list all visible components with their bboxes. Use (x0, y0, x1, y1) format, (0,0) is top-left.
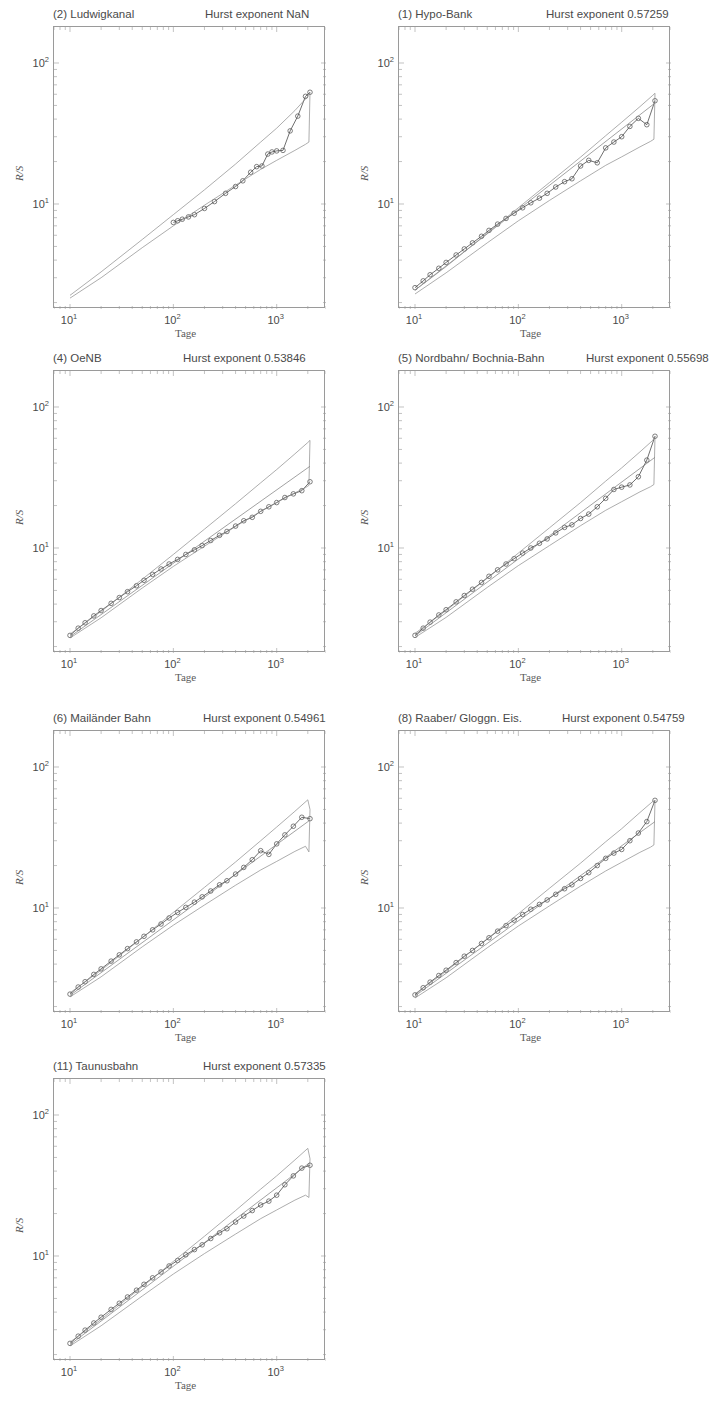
y-axis-label: R/S (358, 510, 370, 525)
x-tick-label: 103 (267, 1364, 283, 1378)
panel-hurst-exponent: Hurst exponent 0.57259 (546, 8, 669, 20)
x-tick-label: 101 (61, 1016, 77, 1030)
y-tick-label: 101 (372, 900, 394, 914)
series-line-linear-fit (415, 103, 655, 290)
x-axis-label: Tage (175, 671, 196, 683)
panel-title-name: (6) Mailänder Bahn (53, 712, 151, 724)
series-line-r-s-data (70, 1165, 310, 1343)
y-tick-label: 101 (372, 540, 394, 554)
panel-hurst-exponent: Hurst exponent 0.53846 (183, 352, 306, 364)
x-axis-label: Tage (175, 1379, 196, 1391)
series-line-lower-envelope (70, 440, 310, 638)
panel-hurst-exponent: Hurst exponent 0.54961 (203, 712, 326, 724)
series-line-lower-envelope (415, 436, 655, 637)
series-markers (68, 815, 313, 996)
plot-panel-ludwigkanal: (2) LudwigkanalHurst exponent NaN1011021… (53, 8, 325, 342)
axis-ticks (54, 371, 326, 653)
y-tick-label: 101 (372, 196, 394, 210)
axis-ticks (399, 371, 671, 653)
series-line-r-s-data (70, 482, 310, 636)
y-tick-label: 102 (372, 759, 394, 773)
series-line-r-s-data (415, 436, 655, 635)
panel-title: (5) Nordbahn/ Bochnia-BahnHurst exponent… (398, 352, 670, 368)
plot-panel-mail-nder-bahn: (6) Mailänder BahnHurst exponent 0.54961… (53, 712, 325, 1046)
x-tick-label: 102 (509, 312, 525, 326)
y-axis-label: R/S (13, 510, 25, 525)
series-line-lower-envelope (415, 93, 655, 294)
plot-canvas (54, 1079, 326, 1361)
y-tick-label: 102 (27, 399, 49, 413)
series-markers (171, 90, 312, 225)
series-line-lower-envelope (70, 92, 310, 298)
panel-hurst-exponent: Hurst exponent NaN (205, 8, 309, 20)
plot-canvas (399, 731, 671, 1013)
x-tick-label: 103 (267, 656, 283, 670)
x-tick-label: 102 (509, 656, 525, 670)
x-axis-label: Tage (175, 327, 196, 339)
plot-panel-raaber-gloggn-eis: (8) Raaber/ Gloggn. Eis.Hurst exponent 0… (398, 712, 670, 1046)
panel-hurst-exponent: Hurst exponent 0.54759 (562, 712, 685, 724)
x-axis-label: Tage (520, 1031, 541, 1043)
panel-title-name: (8) Raaber/ Gloggn. Eis. (398, 712, 522, 724)
panel-title: (1) Hypo-BankHurst exponent 0.57259 (398, 8, 670, 24)
series-line-r-s-data (70, 817, 310, 994)
x-tick-label: 101 (61, 312, 77, 326)
y-axis-label: R/S (13, 870, 25, 885)
axis-ticks (399, 731, 671, 1013)
y-axis-label: R/S (358, 870, 370, 885)
panel-title-name: (5) Nordbahn/ Bochnia-Bahn (398, 352, 544, 364)
series-line-lower-envelope (415, 800, 655, 998)
panel-title-name: (1) Hypo-Bank (398, 8, 472, 20)
x-tick-label: 103 (612, 656, 628, 670)
panel-title: (2) LudwigkanalHurst exponent NaN (53, 8, 325, 24)
x-tick-label: 103 (612, 1016, 628, 1030)
panel-title-name: (11) Taunusbahn (53, 1060, 138, 1072)
plot-canvas (54, 27, 326, 309)
plot-area (398, 730, 670, 1012)
x-axis-label: Tage (520, 671, 541, 683)
y-tick-label: 102 (27, 1107, 49, 1121)
series-line-upper-envelope (70, 440, 310, 634)
x-tick-label: 101 (406, 1016, 422, 1030)
x-tick-label: 101 (406, 312, 422, 326)
panel-title-name: (2) Ludwigkanal (53, 8, 134, 20)
x-tick-label: 103 (612, 312, 628, 326)
panel-title: (4) OeNBHurst exponent 0.53846 (53, 352, 325, 368)
axis-ticks (399, 27, 671, 309)
series-line-linear-fit (415, 457, 655, 636)
plot-panel-taunusbahn: (11) TaunusbahnHurst exponent 0.57335101… (53, 1060, 325, 1394)
x-tick-label: 103 (267, 1016, 283, 1030)
x-tick-label: 101 (61, 656, 77, 670)
axis-ticks (54, 1079, 326, 1361)
x-tick-label: 102 (509, 1016, 525, 1030)
y-tick-label: 101 (27, 900, 49, 914)
y-tick-label: 102 (27, 55, 49, 69)
plot-area (53, 730, 325, 1012)
series-line-upper-envelope (415, 800, 655, 994)
plot-area (398, 26, 670, 308)
plot-area (53, 26, 325, 308)
plot-panel-oenb: (4) OeNBHurst exponent 0.538461011021031… (53, 352, 325, 686)
y-tick-label: 101 (27, 1248, 49, 1262)
y-tick-label: 102 (27, 759, 49, 773)
plot-panel-hypo-bank: (1) Hypo-BankHurst exponent 0.5725910110… (398, 8, 670, 342)
series-line-r-s-data (173, 92, 310, 222)
x-axis-label: Tage (520, 327, 541, 339)
plot-area (398, 370, 670, 652)
x-tick-label: 102 (164, 312, 180, 326)
plot-panel-nordbahn-bochnia-bahn: (5) Nordbahn/ Bochnia-BahnHurst exponent… (398, 352, 670, 686)
series-line-linear-fit (415, 822, 655, 996)
panel-title-name: (4) OeNB (53, 352, 102, 364)
axis-ticks (54, 27, 326, 309)
plot-canvas (399, 371, 671, 653)
panel-title: (6) Mailänder BahnHurst exponent 0.54961 (53, 712, 325, 728)
series-line-linear-fit (70, 820, 310, 995)
panel-hurst-exponent: Hurst exponent 0.57335 (203, 1060, 326, 1072)
y-tick-label: 102 (372, 399, 394, 413)
plot-area (53, 370, 325, 652)
y-axis-label: R/S (358, 166, 370, 181)
x-tick-label: 102 (164, 656, 180, 670)
series-line-linear-fit (70, 466, 310, 636)
plot-canvas (54, 371, 326, 653)
series-line-upper-envelope (415, 93, 655, 290)
